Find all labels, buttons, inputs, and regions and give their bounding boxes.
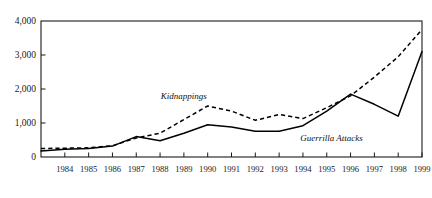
y-tick-label: 3,000 (15, 50, 37, 60)
series-line-guerrilla-attacks (41, 52, 422, 151)
series-annotations: KidnappingsGuerrilla Attacks (160, 91, 363, 143)
x-tick-label: 1993 (271, 164, 288, 174)
line-chart: 01,0002,0003,0004,000 198419851986198719… (0, 0, 432, 198)
x-axis-tick-labels: 1984198519861987198819891990199119921993… (56, 164, 430, 174)
y-tick-label: 2,000 (15, 84, 37, 94)
x-tick-label: 1991 (223, 164, 240, 174)
x-tick-label: 1985 (80, 164, 97, 174)
x-tick-label: 1995 (318, 164, 335, 174)
chart-container: 01,0002,0003,0004,000 198419851986198719… (0, 0, 432, 198)
x-tick-label: 1987 (128, 164, 146, 174)
x-tick-label: 1996 (342, 164, 360, 174)
series-annotation-label: Guerrilla Attacks (300, 133, 363, 143)
x-tick-label: 1997 (366, 164, 384, 174)
x-tick-label: 1999 (413, 164, 430, 174)
plot-frame (41, 21, 422, 157)
y-tick-label: 1,000 (15, 118, 37, 128)
x-tick-label: 1994 (294, 164, 312, 174)
y-axis-tick-marks (41, 55, 46, 123)
series-annotation-label: Kidnappings (160, 91, 208, 101)
x-tick-label: 1992 (247, 164, 264, 174)
y-tick-label: 0 (31, 152, 36, 162)
y-tick-label: 4,000 (15, 16, 37, 26)
x-tick-label: 1984 (56, 164, 74, 174)
x-tick-label: 1990 (199, 164, 216, 174)
series-line-kidnappings (41, 30, 422, 149)
y-axis-tick-labels: 01,0002,0003,0004,000 (15, 16, 37, 162)
x-tick-label: 1988 (151, 164, 168, 174)
x-tick-label: 1989 (175, 164, 192, 174)
x-tick-label: 1998 (390, 164, 407, 174)
x-tick-label: 1986 (104, 164, 122, 174)
x-axis-tick-marks (65, 153, 422, 158)
